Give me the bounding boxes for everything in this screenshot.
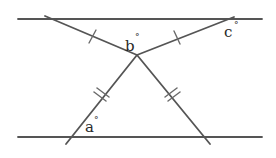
angle-label-c: c [224,23,232,41]
upper-right-segment [137,17,234,55]
lower-left-segment [66,55,137,144]
angle-label-b: b [125,37,135,55]
geometry-diagram: b ° c ° a ° [0,0,276,158]
lower-right-segment [137,55,210,144]
single-tick-mark-upper-right [174,31,180,44]
degree-symbol-a: ° [94,115,99,125]
angle-label-a: a [85,118,94,136]
degree-symbol-b: ° [135,32,140,42]
degree-symbol-c: ° [234,20,239,30]
upper-left-segment [45,16,137,55]
